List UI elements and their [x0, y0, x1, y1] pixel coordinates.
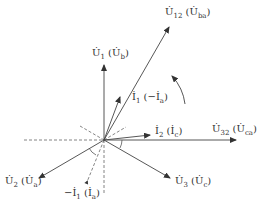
label-u32: U̇32 (U̇ca) — [212, 124, 257, 137]
label-u12: U̇12 (U̇ba) — [165, 7, 210, 20]
minus-i1-phasor-line — [87, 140, 104, 182]
label-u1: U̇1 (U̇b) — [92, 48, 129, 61]
phasor-i1 — [104, 97, 120, 140]
phasor-u3 — [104, 140, 170, 178]
label-u3: U̇3 (U̇c) — [175, 176, 211, 189]
angle-arc-lower-left — [89, 148, 96, 155]
phasor-u2 — [39, 140, 104, 178]
phasor-u12 — [104, 27, 169, 140]
label-i1: İ1 (−İa) — [132, 92, 168, 105]
minus-i1-arrowhead — [84, 179, 89, 184]
label-minus-i1: −İ1 (İa) — [64, 188, 100, 201]
label-i2: İ2 (İc) — [155, 126, 182, 139]
phasor-i2 — [104, 135, 150, 140]
angle-arc-right — [120, 140, 122, 148]
label-u2: U̇2 (U̇a) — [5, 176, 42, 189]
dashed-line-upper-left — [80, 126, 104, 140]
rotation-direction-arrow — [172, 76, 185, 104]
